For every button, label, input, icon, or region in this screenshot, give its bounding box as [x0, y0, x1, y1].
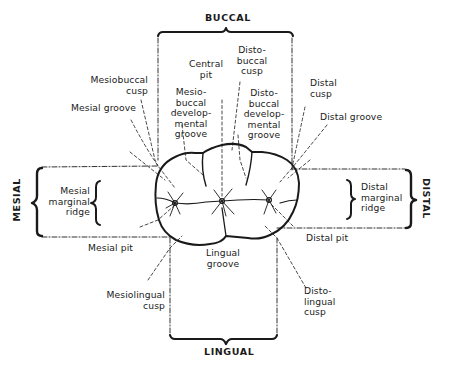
molar-occlusal-diagram: BUCCAL LINGUAL MESIAL DISTAL Central pit…: [0, 0, 451, 368]
surface-label-lingual: LINGUAL: [204, 346, 254, 357]
label-central-pit: Central pit: [187, 59, 225, 80]
buccal-brace: [158, 28, 293, 36]
label-distal-groove: Distal groove: [320, 112, 382, 123]
label-distal-marginal-ridge: Distal marginal ridge: [361, 182, 402, 214]
label-mesial-groove: Mesial groove: [71, 103, 136, 114]
label-mesial-pit: Mesial pit: [88, 243, 133, 254]
distal-marginal-ridge-brace: [347, 180, 355, 219]
surface-label-mesial: MESIAL: [11, 182, 22, 222]
label-mesio-buccal-developmental-groove: Mesio- buccal develop- mental groove: [166, 87, 216, 140]
surface-label-distal: DISTAL: [421, 178, 432, 220]
label-disto-buccal-cusp: Disto- buccal cusp: [232, 45, 272, 77]
mesial-brace: [32, 168, 42, 236]
lingual-brace: [170, 335, 277, 344]
label-distal-cusp: Distal cusp: [310, 78, 337, 99]
surface-label-buccal: BUCCAL: [205, 12, 251, 23]
label-disto-buccal-developmental-groove: Disto- buccal develop- mental groove: [238, 88, 290, 141]
label-mesiobuccal-cusp: Mesiobuccal cusp: [86, 75, 148, 96]
label-mesial-marginal-ridge: Mesial marginal ridge: [46, 186, 90, 218]
mesial-marginal-ridge-brace: [91, 181, 100, 225]
distal-brace: [406, 170, 416, 228]
label-disto-lingual-cusp: Disto- lingual cusp: [304, 286, 335, 318]
label-mesiolingual-cusp: Mesiolingual cusp: [100, 290, 165, 311]
label-lingual-groove: Lingual groove: [198, 248, 248, 269]
label-distal-pit: Distal pit: [306, 233, 348, 244]
